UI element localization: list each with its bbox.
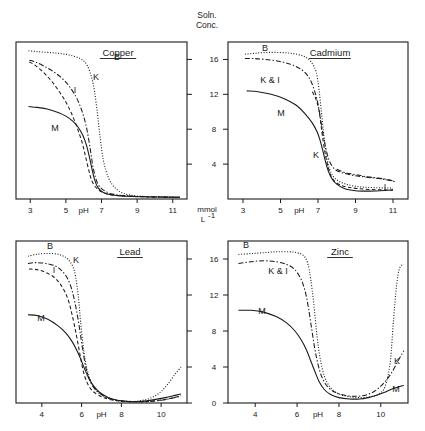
x-tick-label: 9 — [135, 206, 140, 215]
curve-lead-B — [28, 253, 181, 401]
x-tick-label: 4 — [253, 410, 258, 419]
x-tick-label: 7 — [316, 206, 321, 215]
y-tick-label: 8 — [212, 327, 217, 336]
curve-cadmium-I — [337, 169, 395, 181]
y-tick-label: 4 — [212, 363, 217, 372]
x-tick-label: 7 — [99, 206, 104, 215]
curve-label-zinc-M-right: M — [392, 384, 400, 394]
panel-copper: 357911pHCopperBKIM — [16, 42, 192, 215]
curve-label-zinc-KI: K & I — [268, 266, 288, 276]
x-tick-label: 8 — [337, 410, 342, 419]
curve-copper-M — [28, 107, 179, 198]
curve-label-copper-M: M — [51, 123, 59, 133]
x-axis-label: pH — [313, 410, 323, 419]
y-tick-label: 12 — [210, 90, 219, 99]
curve-zinc-KI — [238, 261, 403, 397]
y-tick-label: 16 — [210, 55, 219, 64]
x-tick-label: 6 — [295, 410, 300, 419]
curve-label-zinc-B: B — [243, 240, 249, 250]
curve-lead-M — [28, 315, 181, 402]
x-tick-label: 5 — [278, 206, 283, 215]
y-axis-unit-line2: L — [201, 215, 206, 224]
curve-label-cadmium-B: B — [262, 43, 268, 53]
curve-zinc-M — [238, 310, 403, 399]
y-tick-label: 16 — [210, 255, 219, 264]
x-tick-label: 11 — [169, 206, 178, 215]
y-axis-title-line2: Conc. — [196, 20, 218, 30]
curve-label-zinc-M: M — [258, 306, 266, 316]
panel-zinc: 46810pH0481216ZincBK & IMKM — [210, 240, 408, 419]
curve-cadmium-B — [245, 52, 393, 188]
curve-label-copper-I: I — [74, 85, 77, 95]
figure-container: 357911pHCopperBKIM357911pH481216CadmiumB… — [0, 0, 425, 431]
x-tick-label: 9 — [353, 206, 358, 215]
x-tick-label: 11 — [389, 206, 398, 215]
x-axis-label: pH — [79, 206, 89, 215]
y-axis-title-line1: Soln. — [197, 10, 216, 20]
curve-cadmium-M — [247, 91, 393, 191]
x-tick-label: 6 — [79, 410, 84, 419]
curve-lead-K — [28, 263, 181, 402]
panel-title: Cadmium — [310, 47, 351, 58]
y-tick-label: 8 — [212, 125, 217, 134]
y-tick-label: 12 — [210, 291, 219, 300]
y-axis-unit-exponent: -1 — [208, 211, 216, 220]
x-tick-label: 8 — [119, 410, 124, 419]
panel-cadmium: 357911pH481216CadmiumBK & IKIM — [210, 42, 408, 215]
panel-title: Lead — [119, 246, 140, 257]
x-tick-label: 5 — [64, 206, 69, 215]
y-tick-label: 0 — [212, 399, 217, 408]
axis-annotations: Soln.Conc.mmolL-1 — [196, 10, 218, 224]
x-axis-label: pH — [96, 410, 106, 419]
panel-lead: 46810pHLeadBKIM — [16, 241, 192, 419]
curve-label-cadmium-K2: K — [313, 150, 319, 160]
x-tick-label: 3 — [241, 206, 246, 215]
plot-frame — [16, 42, 187, 199]
plot-frame — [228, 42, 408, 199]
curve-label-zinc-K-right: K — [394, 356, 400, 366]
x-axis-label: pH — [294, 206, 304, 215]
curve-lead-I — [29, 269, 181, 402]
x-tick-label: 3 — [28, 206, 33, 215]
four-panel-line-chart: 357911pHCopperBKIM357911pH481216CadmiumB… — [0, 0, 425, 431]
y-tick-label: 4 — [212, 160, 217, 169]
curve-label-lead-M: M — [37, 313, 45, 323]
curve-label-lead-K: K — [73, 255, 79, 265]
x-tick-label: 10 — [376, 410, 385, 419]
curve-label-cadmium-K: K & I — [260, 75, 280, 85]
curve-label-lead-I: I — [53, 265, 56, 275]
curve-label-copper-K: K — [93, 72, 99, 82]
curve-label-copper-B: B — [114, 52, 120, 62]
x-tick-label: 10 — [157, 410, 166, 419]
curve-label-cadmium-M: M — [277, 108, 285, 118]
curve-label-lead-B: B — [47, 241, 53, 251]
curve-label-cadmium-I: I — [384, 182, 387, 192]
x-tick-label: 4 — [40, 410, 45, 419]
panel-title: Zinc — [331, 246, 349, 257]
